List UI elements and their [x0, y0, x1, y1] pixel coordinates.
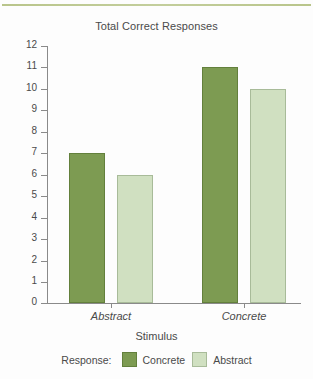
x-category-label-concrete: Concrete: [222, 310, 267, 322]
y-tick-label-2: 2: [31, 254, 37, 265]
legend-swatch-abstract-icon: [192, 352, 207, 367]
y-tick-label-8: 8: [31, 125, 37, 136]
x-axis-line: [47, 303, 301, 304]
legend-label-abstract: Abstract: [213, 354, 252, 366]
legend-item-concrete[interactable]: Concrete: [122, 352, 186, 367]
legend-label-concrete: Concrete: [143, 354, 186, 366]
bar-abstract-concrete[interactable]: [69, 153, 105, 303]
y-tick-label-4: 4: [31, 211, 37, 222]
y-tick-label-11: 11: [27, 60, 37, 71]
legend-item-abstract[interactable]: Abstract: [192, 352, 252, 367]
x-tick-abstract: [111, 303, 112, 308]
bar-chart-figure: Total Correct Responses 12 11 10 9 8 7 6…: [0, 0, 313, 379]
y-tick-label-12: 12: [26, 39, 37, 50]
plot-area: [47, 46, 300, 303]
y-tick-label-10: 10: [26, 82, 37, 93]
chart-title: Total Correct Responses: [0, 20, 313, 32]
y-tick-label-0: 0: [31, 296, 37, 307]
chart-legend: Response: Concrete Abstract: [0, 352, 313, 367]
legend-title: Response:: [61, 354, 111, 366]
y-tick-label-1: 1: [31, 275, 37, 286]
bar-abstract-abstract[interactable]: [117, 175, 153, 303]
x-axis-title: Stimulus: [0, 330, 313, 342]
y-tick-label-7: 7: [31, 146, 37, 157]
legend-swatch-concrete-icon: [122, 352, 137, 367]
y-tick-label-9: 9: [31, 103, 37, 114]
bar-concrete-concrete[interactable]: [202, 67, 238, 303]
y-tick-label-3: 3: [31, 232, 37, 243]
y-tick-label-6: 6: [31, 168, 37, 179]
x-category-label-abstract: Abstract: [91, 310, 131, 322]
y-tick-label-5: 5: [31, 189, 37, 200]
y-tick-0: 0: [41, 303, 47, 304]
bar-concrete-abstract[interactable]: [250, 89, 286, 303]
x-tick-concrete: [244, 303, 245, 308]
